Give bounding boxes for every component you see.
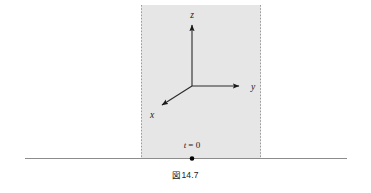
figure-caption: 図14.7 <box>0 168 371 180</box>
time-equals-value: = 0 <box>188 140 200 150</box>
figure-diagram: z y x t= 0 <box>0 0 371 193</box>
origin-dot-marker <box>190 156 195 161</box>
figure-container: z y x t= 0 図14.7 <box>0 0 371 193</box>
shaded-slab-region <box>141 5 261 158</box>
y-axis-label: y <box>250 82 256 92</box>
z-axis-label: z <box>189 10 194 20</box>
caption-number: 14.7 <box>181 170 198 180</box>
x-axis-label: x <box>149 110 155 120</box>
